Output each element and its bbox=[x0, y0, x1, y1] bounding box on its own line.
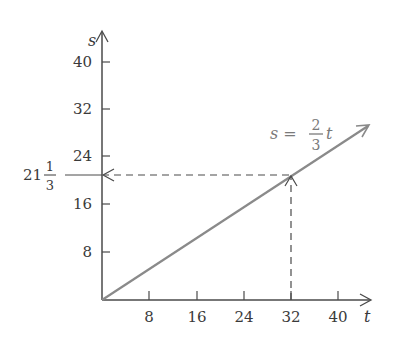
marker-label-den: 3 bbox=[46, 178, 54, 193]
y-tick-label: 32 bbox=[73, 100, 92, 118]
x-ticks bbox=[149, 291, 338, 300]
x-tick-label: 24 bbox=[234, 308, 253, 326]
equation-num: 2 bbox=[312, 117, 321, 133]
equation-den: 3 bbox=[312, 137, 321, 153]
y-tick-label: 8 bbox=[82, 243, 92, 261]
chart: 8 16 24 32 40 8 16 24 32 40 s t 21 1 3 s… bbox=[0, 0, 396, 345]
x-tick-label: 32 bbox=[281, 308, 300, 326]
y-ticks bbox=[102, 62, 110, 252]
x-tick-label: 8 bbox=[144, 308, 154, 326]
y-tick-label: 40 bbox=[73, 53, 92, 71]
x-tick-label: 16 bbox=[187, 308, 206, 326]
equation-lhs: s = bbox=[270, 124, 297, 143]
line-arrow-icon bbox=[356, 125, 369, 137]
y-axis-label: s bbox=[88, 31, 96, 50]
x-axis-label: t bbox=[364, 307, 371, 326]
series-line bbox=[102, 126, 368, 300]
x-tick-label: 40 bbox=[328, 308, 347, 326]
y-tick-label: 24 bbox=[73, 147, 92, 165]
y-tick-label: 16 bbox=[73, 195, 92, 213]
marker-label-whole: 21 bbox=[23, 166, 42, 184]
marker-label-num: 1 bbox=[46, 159, 54, 174]
equation-var: t bbox=[326, 124, 333, 143]
